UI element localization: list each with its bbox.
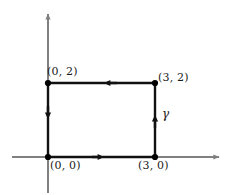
contour-path-group	[48, 83, 155, 157]
vertex-nodes-group	[45, 80, 158, 160]
axes-group	[12, 14, 219, 193]
vertex-label-top-left: (0, 2)	[47, 66, 78, 77]
contour-diagram: (0, 2) (3, 2) (0, 0) (3, 0) γ	[0, 0, 230, 195]
vertex-label-bottom-right: (3, 0)	[138, 160, 169, 171]
diagram-canvas	[0, 0, 230, 195]
direction-arrows-group	[48, 83, 155, 157]
vertex-label-top-right: (3, 2)	[158, 72, 189, 83]
contour-curve-label-gamma: γ	[162, 108, 169, 120]
vertex-label-origin: (0, 0)	[50, 160, 81, 171]
vertex-node-top-left	[45, 80, 51, 86]
